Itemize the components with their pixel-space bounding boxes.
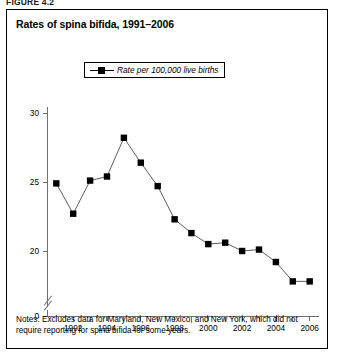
chart-notes: Notes: Excludes data for Maryland, New M…: [16, 314, 316, 336]
data-point-marker: [239, 248, 245, 254]
figure-label: FIGURE 4.2: [6, 0, 54, 6]
data-point-marker: [138, 160, 144, 166]
data-point-marker: [205, 241, 211, 247]
figure-frame: Rates of spina bifida, 1991–2006 Rate pe…: [6, 9, 328, 349]
data-point-marker: [155, 183, 161, 189]
data-series: [7, 10, 329, 350]
plot-area: 3025200 19921994199619982000200220042006: [7, 10, 329, 350]
data-point-marker: [273, 259, 279, 265]
data-point-marker: [171, 216, 177, 222]
data-point-marker: [307, 278, 313, 284]
data-point-marker: [290, 278, 296, 284]
data-point-marker: [222, 240, 228, 246]
data-point-marker: [70, 211, 76, 217]
data-point-marker: [256, 246, 262, 252]
data-point-marker: [188, 230, 194, 236]
data-point-marker: [104, 173, 110, 179]
data-point-marker: [87, 177, 93, 183]
data-point-marker: [53, 180, 59, 186]
data-point-marker: [121, 135, 127, 141]
series-line: [56, 138, 309, 282]
